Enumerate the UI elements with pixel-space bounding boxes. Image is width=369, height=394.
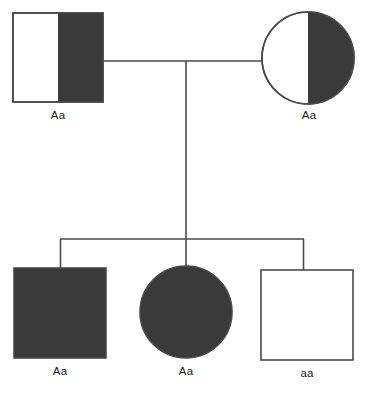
symbol-father-male-half-filled[interactable] xyxy=(13,13,103,102)
child-3-square xyxy=(261,270,353,360)
child-1-square xyxy=(14,268,106,358)
genotype-label-father: Aa xyxy=(13,110,103,122)
pedigree-canvas-svg xyxy=(0,0,369,394)
father-square-right-half-fill xyxy=(58,13,103,102)
genotype-label-child-2: Aa xyxy=(140,366,232,378)
genotype-label-child-3: aa xyxy=(261,368,353,380)
generation-2-symbols xyxy=(14,266,353,360)
pedigree-diagram: Aa Aa Aa Aa aa xyxy=(0,0,369,394)
genotype-label-child-1: Aa xyxy=(14,366,106,378)
generation-1-symbols xyxy=(13,12,354,104)
symbol-child-1-male-filled[interactable] xyxy=(14,268,106,358)
genotype-label-mother: Aa xyxy=(263,110,355,122)
symbol-child-3-male-open[interactable] xyxy=(261,270,353,360)
symbol-child-2-female-filled[interactable] xyxy=(140,266,232,358)
symbol-mother-female-half-filled[interactable] xyxy=(262,12,354,104)
child-2-circle xyxy=(140,266,232,358)
